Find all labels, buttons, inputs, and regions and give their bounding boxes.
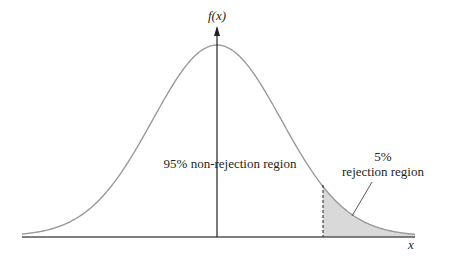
y-axis-label: f(x) (208, 8, 226, 23)
rejection-percent-label: 5% (374, 149, 392, 164)
non-rejection-region-label: 95% non-rejection region (164, 156, 297, 171)
x-axis-label: x (407, 237, 414, 252)
normal-curve (22, 45, 415, 234)
normal-distribution-diagram: f(x) x 95% non-rejection region 5% rejec… (0, 0, 450, 263)
rejection-leader-line (352, 182, 372, 216)
rejection-region-shading (323, 187, 415, 238)
rejection-region-label: rejection region (342, 164, 424, 179)
y-axis-arrow-icon (214, 26, 220, 36)
